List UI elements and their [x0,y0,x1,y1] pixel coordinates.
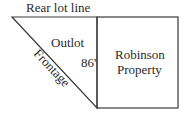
frontage-label: Frontage [31,46,74,90]
outlot-label: Outlot [51,35,85,50]
dimension-label: 86' [81,55,96,70]
robinson-label: Robinson [115,47,165,62]
property-label: Property [117,62,162,77]
lot-diagram: Rear lot line Outlot 86' Robinson Proper… [0,0,188,115]
rear-lot-line-label: Rear lot line [26,0,90,15]
